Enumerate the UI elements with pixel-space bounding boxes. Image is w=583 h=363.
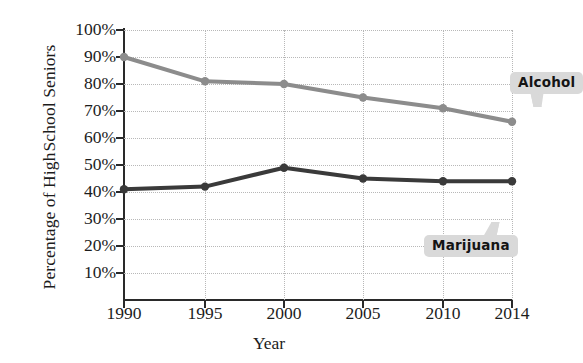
y-tick-mark	[116, 218, 124, 220]
callout-alcohol-label: Alcohol	[518, 74, 575, 90]
y-tick-mark	[116, 164, 124, 166]
y-tick-label: 30%	[58, 210, 116, 228]
y-tick-label: 90%	[58, 48, 116, 66]
data-point-alcohol-2005	[359, 93, 367, 101]
series-lines	[124, 30, 512, 300]
x-tick-label: 2005	[323, 305, 403, 323]
y-tick-label: 80%	[58, 75, 116, 93]
data-point-alcohol-2014	[508, 118, 516, 126]
data-point-alcohol-2010	[439, 104, 447, 112]
y-tick-mark	[116, 272, 124, 274]
x-tick-label: 2010	[403, 305, 483, 323]
data-point-alcohol-2000	[280, 80, 288, 88]
y-tick-label: 100%	[58, 21, 116, 39]
y-axis-title-line-2: School Seniors	[39, 45, 60, 152]
callout-marijuana: Marijuana	[424, 235, 518, 257]
data-point-alcohol-1990	[120, 53, 128, 61]
y-tick-label: 60%	[58, 129, 116, 147]
callout-alcohol: Alcohol	[510, 72, 583, 94]
x-tick-label: 2000	[244, 305, 324, 323]
data-point-marijuana-1995	[201, 182, 209, 190]
y-tick-mark	[116, 110, 124, 112]
plot-area: Alcohol Marijuana	[124, 30, 512, 300]
x-tick-label: 1995	[165, 305, 245, 323]
data-point-marijuana-2005	[359, 174, 367, 182]
data-point-marijuana-1990	[120, 185, 128, 193]
x-tick-label: 2014	[472, 305, 552, 323]
x-tick-label: 1990	[84, 305, 164, 323]
y-tick-mark	[116, 83, 124, 85]
callout-marijuana-label: Marijuana	[432, 237, 510, 253]
data-point-marijuana-2000	[280, 164, 288, 172]
y-tick-label: 20%	[58, 237, 116, 255]
series-line-marijuana	[124, 168, 512, 190]
y-tick-mark	[116, 29, 124, 31]
x-axis-title: Year	[0, 333, 538, 354]
gridline-vertical	[512, 30, 513, 300]
data-point-marijuana-2010	[439, 177, 447, 185]
data-point-alcohol-1995	[201, 77, 209, 85]
series-line-alcohol	[124, 57, 512, 122]
y-tick-label: 10%	[58, 264, 116, 282]
data-point-marijuana-2014	[508, 177, 516, 185]
y-axis-title-line-1: Percentage of High	[39, 153, 60, 290]
callout-alcohol-tail	[531, 93, 547, 107]
y-tick-label: 70%	[58, 102, 116, 120]
callout-marijuana-tail	[483, 222, 499, 236]
y-tick-mark	[116, 245, 124, 247]
y-tick-label: 40%	[58, 183, 116, 201]
y-tick-mark	[116, 137, 124, 139]
y-tick-label: 50%	[58, 156, 116, 174]
